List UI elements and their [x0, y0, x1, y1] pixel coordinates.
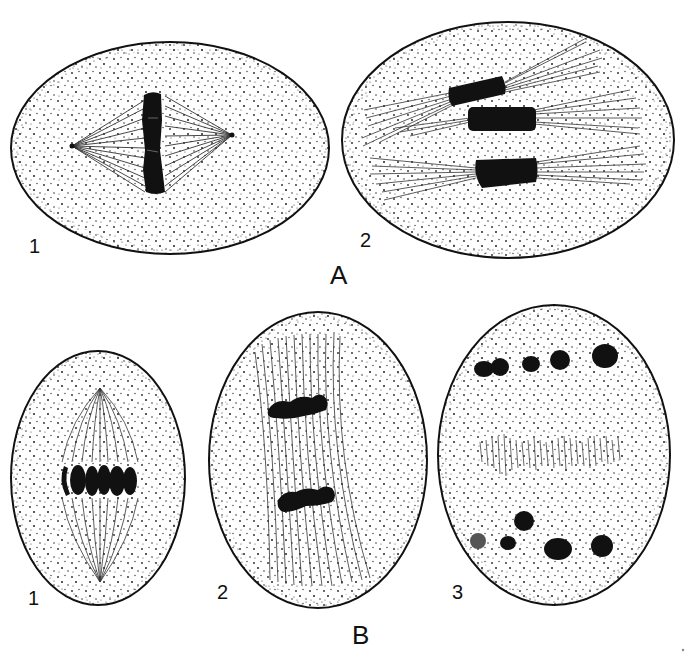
label-b3: 3 — [452, 582, 463, 602]
label-b2: 2 — [217, 582, 228, 602]
corner-mark — [682, 649, 684, 651]
centriole-left — [70, 144, 75, 149]
cell-b1 — [11, 351, 185, 605]
group-label-a: A — [330, 262, 347, 288]
label-a2: 2 — [360, 230, 371, 250]
chromosome — [468, 107, 536, 131]
cell-b3 — [438, 305, 670, 605]
cell-a1 — [11, 42, 329, 254]
cell-b2 — [209, 312, 427, 608]
group-label-b: B — [352, 622, 369, 648]
label-b1: 1 — [28, 588, 39, 608]
cell-a2 — [342, 22, 674, 258]
centriole-right — [230, 133, 235, 138]
label-a1: 1 — [29, 236, 40, 256]
mitosis-figure — [0, 0, 686, 656]
